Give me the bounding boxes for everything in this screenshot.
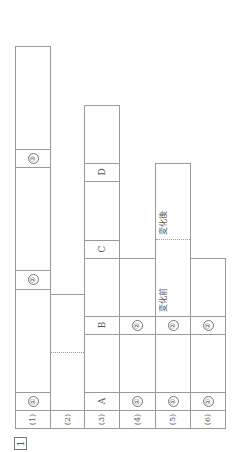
cell-label: A — [84, 392, 120, 410]
dotted-divider — [51, 352, 84, 353]
row-label: (1) — [15, 410, 51, 429]
divider — [119, 334, 156, 335]
divider — [84, 334, 120, 335]
answer-area-3 — [84, 105, 120, 429]
dotted-divider — [156, 239, 190, 240]
answer-area-2 — [50, 294, 85, 429]
row-label: (6) — [190, 410, 226, 429]
cell-label: ① — [190, 392, 226, 410]
divider — [84, 181, 120, 182]
cell-label: ① — [155, 392, 191, 410]
cell-label: ② — [15, 270, 51, 289]
cell-label: ① — [119, 392, 156, 410]
cell-label: ② — [119, 316, 156, 334]
note-after: 変化後 — [155, 205, 169, 239]
row-label: (4) — [119, 410, 156, 429]
divider — [84, 258, 120, 259]
answer-area-1 — [15, 46, 51, 429]
divider — [15, 289, 51, 290]
row-label: (3) — [84, 410, 120, 429]
row-label: (5) — [155, 410, 191, 429]
question-number: 1 — [14, 437, 27, 450]
cell-label: ① — [15, 392, 51, 410]
divider — [155, 334, 191, 335]
cell-label: ② — [190, 316, 226, 334]
cell-label: ② — [155, 316, 191, 334]
cell-label: D — [84, 163, 120, 181]
note-before: 変化前 — [155, 282, 169, 316]
divider — [15, 167, 51, 168]
row-label: (2) — [50, 410, 85, 429]
divider — [190, 334, 226, 335]
cell-label: B — [84, 316, 120, 334]
cell-label: C — [84, 240, 120, 258]
cell-label: ③ — [15, 149, 51, 167]
